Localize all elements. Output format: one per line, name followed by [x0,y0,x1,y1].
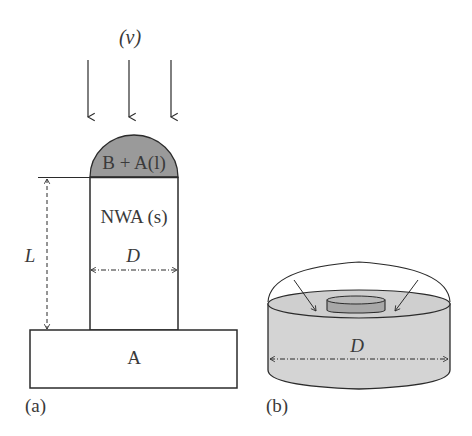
inner-disc-top [327,296,385,304]
diameter-label-a: D [125,245,140,266]
panel-a: (ν) B + A(l) NWA (s) D L A (a) [24,26,237,417]
radiation-label: (ν) [119,26,142,49]
substrate-label: A [127,347,141,368]
panel-b: D (b) [266,262,450,417]
diameter-label-b: D [349,335,364,356]
nanowire-label: NWA (s) [100,206,167,228]
caption-b: (b) [266,395,288,417]
caption-a: (a) [25,395,46,417]
droplet-label: B + A(l) [102,152,166,174]
diagram-canvas: (ν) B + A(l) NWA (s) D L A (a) [0,0,472,436]
incident-arrows [88,60,171,117]
length-label: L [24,245,36,266]
